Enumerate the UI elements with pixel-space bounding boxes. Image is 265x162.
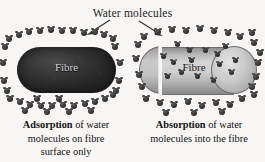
water-molecule-outside-6: [225, 30, 231, 36]
water-molecule-inside-7: [165, 74, 170, 79]
water-molecule-outside-24: [227, 102, 233, 108]
water-molecule-outside-32: [66, 109, 72, 115]
caption-absorption-keyword: Absorption: [156, 119, 206, 130]
water-molecule-outside-6: [70, 28, 76, 34]
water-molecule-outside-15: [253, 74, 259, 80]
water-molecule-outside-12: [133, 56, 139, 62]
water-molecule-inside-13: [171, 60, 176, 65]
water-molecule-outside-25: [239, 96, 245, 102]
caption-adsorption: Adsorption of water molecules on fibre s…: [2, 118, 130, 159]
water-molecule-outside-5: [211, 28, 217, 34]
fibre-solid-capsule: Fibre: [17, 47, 116, 93]
water-molecule-inside-4: [217, 62, 222, 67]
water-molecule-outside-2: [26, 29, 32, 35]
water-molecule-outside-8: [249, 30, 255, 36]
water-molecule-outside-9: [101, 32, 107, 38]
water-molecule-outside-22: [199, 103, 205, 109]
water-molecule-outside-3: [183, 28, 189, 34]
water-molecule-inside-11: [215, 52, 220, 57]
water-molecule-outside-34: [34, 96, 40, 102]
panel-absorption: Fibre Absorption of water molecules into…: [133, 26, 265, 162]
water-molecule-inside-2: [189, 58, 194, 63]
caption-absorption: Absorption of water molecules into the f…: [135, 118, 263, 145]
water-molecule-inside-12: [233, 58, 238, 63]
water-molecule-outside-4: [197, 26, 203, 32]
water-molecule-inside-8: [211, 78, 216, 83]
water-molecule-outside-19: [7, 96, 13, 102]
water-molecule-inside-6: [195, 74, 200, 79]
water-molecule-outside-13: [255, 60, 261, 66]
water-molecule-outside-3: [37, 28, 43, 34]
water-molecule-inside-9: [223, 44, 228, 49]
water-molecule-outside-15: [1, 78, 7, 84]
water-molecule-outside-31: [44, 109, 50, 115]
water-molecule-outside-29: [219, 109, 225, 115]
caption-absorption-line1-rest: of water: [206, 119, 243, 130]
water-molecule-outside-20: [17, 99, 23, 105]
water-molecule-outside-1: [155, 29, 161, 35]
panel-adsorption: Fibre Adsorption of water molecules on f…: [0, 26, 132, 162]
water-molecule-outside-13: [0, 60, 6, 66]
water-molecule-outside-21: [185, 99, 191, 105]
water-molecule-outside-4: [48, 27, 54, 33]
water-molecule-inside-10: [229, 70, 234, 75]
water-molecule-outside-17: [4, 88, 10, 94]
water-molecule-outside-26: [251, 92, 257, 98]
caption-adsorption-line2: molecules on fibre: [28, 133, 105, 144]
water-molecule-outside-12: [112, 44, 118, 50]
water-molecule-outside-0: [141, 34, 147, 40]
water-molecule-outside-27: [163, 110, 169, 116]
water-molecule-inside-14: [187, 48, 192, 53]
water-molecule-outside-35: [56, 96, 62, 102]
water-molecule-outside-14: [136, 72, 142, 78]
water-molecule-outside-20: [171, 102, 177, 108]
caption-adsorption-line1-rest: of water: [73, 119, 110, 130]
fibre-label-adsorption: Fibre: [17, 61, 116, 73]
water-molecule-inside-1: [175, 42, 180, 47]
water-molecule-outside-27: [92, 99, 98, 105]
diagram-adsorption-vs-absorption: Water molecules Fibre Adsorption of wate…: [0, 0, 265, 162]
figure-title: Water molecules: [0, 7, 265, 19]
water-molecule-outside-18: [143, 96, 149, 102]
water-molecule-outside-5: [59, 28, 65, 34]
water-molecule-outside-9: [135, 42, 141, 48]
water-molecule-outside-7: [81, 30, 87, 36]
water-molecule-inside-0: [161, 54, 166, 59]
water-molecule-inside-3: [203, 48, 208, 53]
absorption-diagram-area: Fibre: [133, 26, 265, 114]
water-molecule-outside-8: [92, 29, 98, 35]
water-molecule-outside-10: [251, 40, 257, 46]
water-molecule-outside-29: [110, 92, 116, 98]
water-molecule-outside-0: [6, 36, 12, 42]
caption-absorption-line2: molecules into the fibre: [150, 133, 248, 144]
water-molecule-outside-17: [249, 84, 255, 90]
water-molecule-outside-16: [116, 78, 122, 84]
water-molecule-outside-28: [102, 96, 108, 102]
water-molecule-outside-16: [139, 84, 145, 90]
water-molecule-outside-1: [16, 32, 22, 38]
adsorption-diagram-area: Fibre: [0, 26, 132, 114]
water-molecule-outside-2: [169, 27, 175, 33]
caption-adsorption-line3: surface only: [41, 146, 92, 157]
water-molecule-inside-5: [179, 70, 184, 75]
caption-adsorption-keyword: Adsorption: [23, 119, 73, 130]
water-molecule-outside-33: [88, 108, 94, 114]
water-molecule-outside-30: [22, 108, 28, 114]
water-molecule-outside-14: [117, 60, 123, 66]
water-molecule-outside-11: [2, 44, 8, 50]
water-molecule-outside-11: [257, 50, 263, 56]
water-molecule-outside-7: [237, 34, 243, 40]
water-molecule-outside-10: [110, 36, 116, 42]
water-molecule-outside-28: [191, 110, 197, 116]
water-molecule-outside-19: [157, 100, 163, 106]
water-molecule-outside-23: [213, 100, 219, 106]
